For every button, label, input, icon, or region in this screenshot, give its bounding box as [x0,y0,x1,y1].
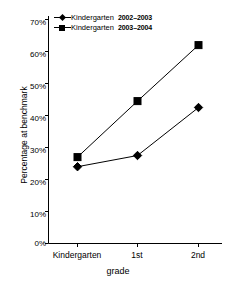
square-data-point [195,42,202,49]
plot-area [0,0,236,287]
x-axis-title: grade [0,266,236,276]
x-tick-label: 2nd [191,250,205,260]
line-chart: Percentage at benchmark 70% 60% 50% 40% … [0,0,236,287]
x-tick-label: Kindergarten [53,250,102,260]
legend-years: 2003–2004 [118,24,152,31]
square-marker-icon [54,23,71,32]
square-data-point [74,154,81,161]
legend-years: 2002–2003 [118,14,152,21]
diamond-marker-icon [54,13,71,22]
legend-item-2003-2004: Kindergarten 2003–2004 [54,23,152,32]
square-data-point [134,98,141,105]
legend-item-2002-2003: Kindergarten 2002–2003 [54,13,152,22]
series-2 [74,42,202,161]
series-layer [73,42,202,171]
series-1 [73,103,202,171]
legend-label: Kindergarten [71,13,114,22]
chart-legend: Kindergarten 2002–2003 Kindergarten 2003… [54,13,152,32]
legend-label: Kindergarten [71,23,114,32]
x-tick-label: 1st [131,250,142,260]
diamond-data-point [73,163,81,171]
